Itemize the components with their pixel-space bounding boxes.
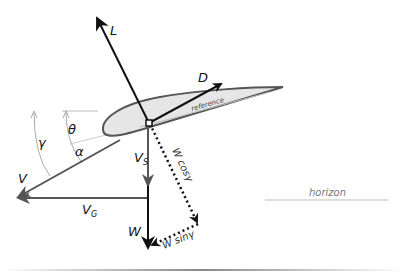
lift-label: L bbox=[110, 23, 117, 38]
ground-velocity-label: VG bbox=[82, 202, 97, 219]
drag-label: D bbox=[198, 70, 208, 85]
velocity-label: V bbox=[18, 171, 28, 186]
chord-extension-line bbox=[70, 134, 110, 144]
velocity-vector bbox=[18, 140, 120, 197]
bottom-separator bbox=[0, 269, 404, 271]
alpha-label: α bbox=[75, 144, 84, 159]
w-cos-gamma-label: W cosγ bbox=[170, 146, 196, 184]
gamma-label: γ bbox=[38, 135, 47, 150]
w-sin-gamma-label: W sinγ bbox=[161, 228, 197, 251]
weight-label: W bbox=[128, 224, 142, 239]
horizon-label: horizon bbox=[309, 187, 346, 198]
theta-label: θ bbox=[68, 122, 76, 137]
center-of-gravity-marker bbox=[146, 120, 152, 126]
glide-forces-diagram: reference horizon L D θ α γ V VG VS W W … bbox=[0, 0, 404, 272]
sink-velocity-label: VS bbox=[134, 150, 148, 167]
